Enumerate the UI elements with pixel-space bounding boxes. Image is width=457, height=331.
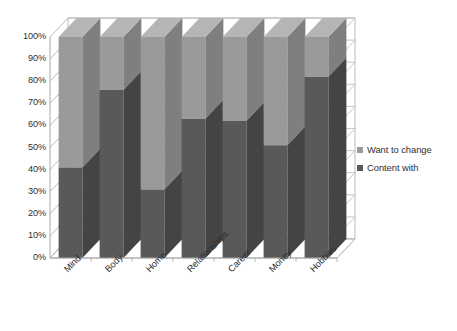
x-axis-category-label: Relationships [185,229,230,274]
legend-label-content-with: Content with [367,162,419,173]
legend-swatch-light-icon [357,147,363,153]
chart-container: 0%10%20%30%40%50%60%70%80%90%100% MindBo… [0,0,457,331]
x-axis-category-label: Hobbies [308,244,338,274]
x-axis-category-label: Career [226,248,253,275]
x-axis-category-label: Body [103,252,125,274]
legend-item-want-to-change[interactable]: Want to change [357,142,455,157]
legend-label-want-to-change: Want to change [367,144,432,155]
chart-legend: Want to change Content with [357,142,455,178]
x-axis-category-label: Home [144,250,168,274]
x-axis-category-label: Mind [62,253,83,274]
legend-item-content-with[interactable]: Content with [357,160,455,175]
legend-swatch-dark-icon [357,165,363,171]
x-axis-category-label: Money [267,248,293,274]
